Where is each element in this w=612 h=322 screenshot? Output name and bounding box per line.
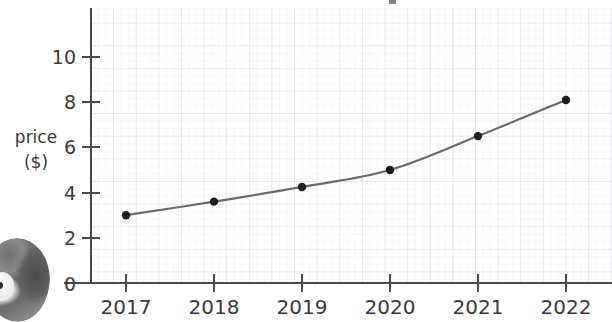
y-axis-tick-labels: 10 8 6 4 2 0	[52, 46, 76, 295]
plot-grid	[91, 8, 612, 283]
x-tick-label: 2017	[101, 295, 152, 319]
x-tick-label: 2018	[189, 295, 240, 319]
x-tick-label: 2019	[277, 295, 328, 319]
data-point	[386, 166, 394, 174]
data-point	[122, 211, 130, 219]
y-tick-label: 10	[52, 46, 76, 68]
x-tick-label: 2022	[541, 295, 592, 319]
y-tick-label: 0	[64, 273, 76, 295]
data-point	[210, 197, 218, 205]
y-axis-title: price ($)	[15, 127, 57, 172]
x-axis-tick-labels: 2017 2018 2019 2020 2021 2022	[101, 295, 592, 319]
y-tick-label: 2	[64, 227, 76, 249]
y-axis-title-line1: price	[15, 127, 57, 147]
x-tick-label: 2021	[453, 295, 504, 319]
y-tick-label: 4	[64, 182, 76, 204]
data-point	[474, 132, 482, 140]
data-point	[562, 96, 570, 104]
y-tick-label: 6	[64, 136, 76, 158]
data-point	[298, 183, 306, 191]
y-axis-title-line2: ($)	[24, 152, 48, 172]
y-tick-label: 8	[64, 91, 76, 113]
x-tick-label: 2020	[365, 295, 416, 319]
